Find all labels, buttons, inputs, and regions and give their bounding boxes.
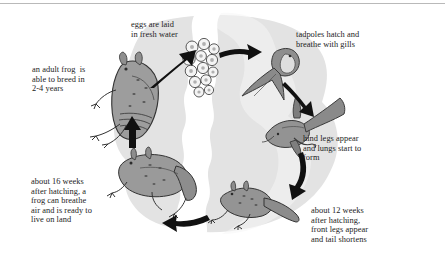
label-adult-frog-breeds: an adult frog is able to breed in 2-4 ye…	[32, 65, 85, 94]
diagram-canvas: eggs are laid in fresh water tadpoles ha…	[0, 6, 445, 259]
label-eggs-are-laid: eggs are laid in fresh water	[131, 20, 178, 39]
frog-life-cycle-figure: eggs are laid in fresh water tadpoles ha…	[0, 0, 445, 259]
label-hind-legs-appear: hind legs appear and lungs start to form	[303, 134, 361, 163]
label-twelve-weeks: about 12 weeks after hatching, front leg…	[311, 206, 368, 244]
label-sixteen-weeks: about 16 weeks after hatching, a frog ca…	[31, 177, 92, 225]
top-divider-rule	[0, 3, 445, 4]
label-tadpoles-hatch: tadpoles hatch and breathe with gills	[296, 30, 359, 49]
